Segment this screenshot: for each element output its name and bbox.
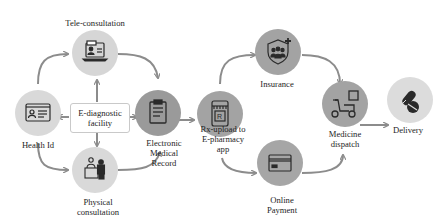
care-flow-diagram: R — [0, 0, 446, 223]
center-box-line: facility — [71, 118, 129, 128]
label-medicine-dispatch: Medicine dispatch — [329, 129, 361, 149]
node-delivery — [387, 77, 433, 123]
label-delivery: Delivery — [393, 125, 423, 135]
edge-insurance-to-dispatch — [302, 55, 340, 84]
label-line: Medicine — [329, 129, 361, 139]
label-line: consultation — [77, 207, 119, 217]
label-line: Tele-consultation — [65, 18, 125, 28]
label-insurance: Insurance — [260, 79, 293, 89]
e-diagnostic-facility-box: E-diagnostic facility — [70, 103, 130, 133]
label-line: Physical — [77, 197, 119, 207]
label-health-id: Health Id — [22, 140, 54, 150]
label-line: Online — [267, 195, 297, 205]
label-line: Insurance — [260, 79, 293, 89]
label-online-payment: Online Payment — [267, 195, 297, 215]
label-line: E-pharmacy — [200, 134, 245, 144]
center-box-line: E-diagnostic — [71, 108, 129, 118]
edge-rx-to-payment — [222, 158, 256, 173]
label-line: Delivery — [393, 125, 423, 135]
label-rx-upload: Rx-upload to E-pharmacy app — [200, 124, 245, 154]
label-line: app — [200, 144, 245, 154]
node-insurance — [255, 29, 301, 75]
node-emr — [135, 90, 181, 136]
label-line: dispatch — [329, 139, 361, 149]
label-line: Payment — [267, 205, 297, 215]
label-line: Health Id — [22, 140, 54, 150]
edge-payment-to-dispatch — [302, 155, 343, 173]
label-teleconsultation: Tele-consultation — [65, 18, 125, 28]
label-line: Medical — [146, 148, 181, 158]
node-teleconsultation — [72, 30, 118, 76]
label-line: Electronic — [146, 138, 181, 148]
edge-rx-to-insurance — [220, 55, 255, 84]
node-physical-consultation — [72, 147, 118, 193]
edge-teleconsultation-to-emr — [118, 54, 158, 78]
node-health-id — [15, 90, 61, 136]
node-medicine-dispatch — [322, 81, 368, 127]
label-line: Record — [146, 158, 181, 168]
svg-text:R: R — [217, 113, 222, 120]
label-physical-consultation: Physical consultation — [77, 197, 119, 217]
label-line: Rx-upload to — [200, 124, 245, 134]
node-online-payment — [257, 140, 303, 186]
edge-health-id-to-teleconsultation — [38, 54, 68, 84]
label-emr: Electronic Medical Record — [146, 138, 181, 168]
